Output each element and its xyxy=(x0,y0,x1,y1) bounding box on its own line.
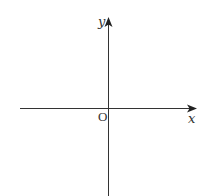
coordinate-plane: y O x xyxy=(0,0,206,196)
origin-label: O xyxy=(98,109,107,124)
x-axis-label: x xyxy=(188,111,196,126)
y-axis-label: y xyxy=(97,14,106,29)
y-axis xyxy=(105,17,113,196)
